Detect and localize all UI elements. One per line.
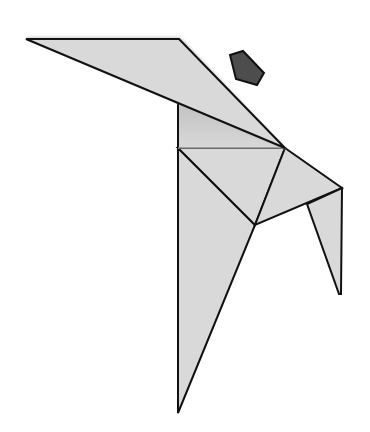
diagram-canvas xyxy=(0,0,370,432)
leg xyxy=(307,188,342,294)
push-arrow-icon xyxy=(230,51,264,85)
